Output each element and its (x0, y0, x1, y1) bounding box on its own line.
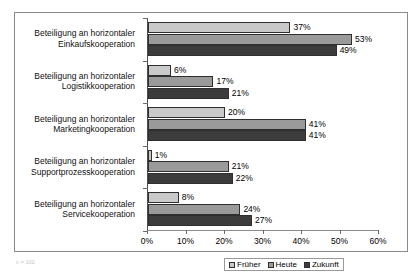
y-axis-tick (143, 231, 148, 232)
category-label: Beteiligung an horizontalerLogistikkoope… (19, 71, 135, 92)
bar-value-label: 24% (243, 204, 260, 215)
x-axis-tick-label: 10% (169, 236, 203, 246)
category-label-line: Beteiligung an horizontaler (19, 28, 135, 39)
bar-frher (148, 150, 152, 161)
category-label-line: Logistikkooperation (19, 81, 135, 92)
category-label-line: Beteiligung an horizontaler (19, 71, 135, 82)
bar-value-label: 21% (232, 161, 249, 172)
legend-item[interactable]: Heute (268, 260, 297, 269)
bar-group: 37%53%49% (148, 18, 379, 61)
chart-caption: n = 102 (16, 259, 35, 265)
x-axis-tick-label: 0% (130, 236, 164, 246)
bar-heute (148, 119, 306, 130)
bar-value-label: 49% (340, 45, 357, 56)
x-axis-tick-label: 60% (361, 236, 395, 246)
bar-frher (148, 22, 290, 33)
bar-value-label: 27% (255, 215, 272, 226)
bar-zukunft (148, 130, 306, 141)
chart-frame: 0%10%20%30%40%50%60% Beteiligung an hori… (14, 12, 408, 252)
plot-area: 37%53%49%6%17%21%20%41%41%1%21%22%8%24%2… (148, 18, 379, 231)
bar-value-label: 6% (174, 65, 186, 76)
legend-label: Früher (237, 260, 261, 269)
bar-value-label: 21% (232, 88, 249, 99)
legend-label: Zukunft (312, 260, 339, 269)
bar-zukunft (148, 173, 233, 184)
bar-zukunft (148, 88, 229, 99)
chart-legend: FrüherHeuteZukunft (224, 258, 344, 271)
bar-frher (148, 192, 179, 203)
bar-value-label: 20% (228, 107, 245, 118)
bar-value-label: 22% (236, 173, 253, 184)
legend-swatch-icon (268, 262, 274, 268)
legend-swatch-icon (304, 262, 310, 268)
legend-item[interactable]: Früher (229, 260, 261, 269)
category-label-line: Beteiligung an horizontaler (19, 199, 135, 210)
bar-group: 1%21%22% (148, 146, 379, 189)
bar-value-label: 17% (216, 76, 233, 87)
category-label-line: Marketingkooperation (19, 124, 135, 135)
category-label-line: Einkaufskooperation (19, 39, 135, 50)
category-label-line: Beteiligung an horizontaler (19, 114, 135, 125)
legend-swatch-icon (229, 262, 235, 268)
bar-heute (148, 34, 352, 45)
legend-label: Heute (276, 260, 297, 269)
bar-heute (148, 204, 240, 215)
bar-group: 8%24%27% (148, 188, 379, 231)
bar-value-label: 8% (182, 192, 194, 203)
x-axis-tick-label: 50% (323, 236, 357, 246)
legend-item[interactable]: Zukunft (304, 260, 339, 269)
bar-zukunft (148, 45, 337, 56)
bar-value-label: 1% (155, 150, 167, 161)
x-axis-tick-label: 30% (246, 236, 280, 246)
bar-frher (148, 65, 171, 76)
bar-heute (148, 76, 213, 87)
bar-value-label: 41% (309, 130, 326, 141)
bar-zukunft (148, 215, 252, 226)
category-label: Beteiligung an horizontalerEinkaufskoope… (19, 28, 135, 49)
x-axis-tick-label: 20% (207, 236, 241, 246)
bar-group: 6%17%21% (148, 61, 379, 104)
category-label-line: Servicekooperation (19, 209, 135, 220)
bar-value-label: 53% (355, 34, 372, 45)
category-label-line: Beteiligung an horizontaler (19, 156, 135, 167)
bar-value-label: 37% (293, 22, 310, 33)
bar-heute (148, 161, 229, 172)
bar-group: 20%41%41% (148, 103, 379, 146)
category-label: Beteiligung an horizontalerSupportprozes… (19, 156, 135, 177)
category-label-line: Supportprozesskooperation (19, 167, 135, 178)
bar-value-label: 41% (309, 119, 326, 130)
category-label: Beteiligung an horizontalerMarketingkoop… (19, 114, 135, 135)
bar-frher (148, 107, 225, 118)
x-axis-tick-label: 40% (284, 236, 318, 246)
category-label: Beteiligung an horizontalerServicekooper… (19, 199, 135, 220)
